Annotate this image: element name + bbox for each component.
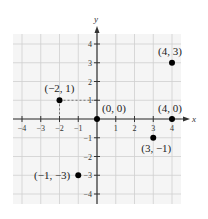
point-label: (−2, 1) bbox=[44, 82, 74, 95]
x-axis-label: x bbox=[191, 114, 196, 124]
x-tick-label: −2 bbox=[55, 124, 64, 133]
x-tick-label: 4 bbox=[170, 124, 174, 133]
data-point bbox=[75, 172, 81, 178]
x-tick-label: −4 bbox=[18, 124, 27, 133]
y-tick-label: 4 bbox=[88, 40, 92, 49]
point-label: (4, 3) bbox=[158, 45, 182, 58]
y-axis-label: y bbox=[93, 14, 98, 24]
y-tick-label: −1 bbox=[83, 134, 92, 143]
x-tick-label: −3 bbox=[36, 124, 45, 133]
point-label: (0, 0) bbox=[102, 102, 126, 115]
x-tick-label: 1 bbox=[114, 124, 118, 133]
coordinate-plane: −4−3−2−112344321−1−2−3−4 (−2, 1)(4, 3)(0… bbox=[0, 0, 208, 219]
data-point bbox=[150, 135, 156, 141]
y-tick-label: 2 bbox=[88, 78, 92, 87]
y-tick-label: −3 bbox=[83, 171, 92, 180]
data-point bbox=[169, 116, 175, 122]
x-tick-label: −1 bbox=[74, 124, 83, 133]
y-tick-label: −2 bbox=[83, 153, 92, 162]
y-axis-arrow-icon bbox=[95, 26, 100, 33]
x-axis-arrow-icon bbox=[183, 117, 190, 122]
y-tick-label: 1 bbox=[88, 96, 92, 105]
data-point bbox=[57, 97, 63, 103]
point-label: (−1, −3) bbox=[34, 169, 71, 182]
x-tick-label: 2 bbox=[133, 124, 137, 133]
data-point bbox=[94, 116, 100, 122]
x-tick-label: 3 bbox=[151, 124, 155, 133]
data-point bbox=[169, 60, 175, 66]
point-label: (3, −1) bbox=[141, 142, 171, 155]
y-tick-label: −4 bbox=[83, 190, 92, 199]
point-label: (4, 0) bbox=[158, 102, 182, 115]
y-tick-label: 3 bbox=[88, 59, 92, 68]
